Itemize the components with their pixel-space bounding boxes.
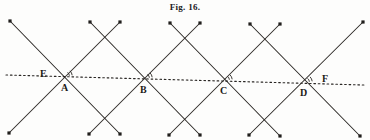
point-label-B: B [140, 85, 147, 95]
angle-arc-D [310, 77, 312, 81]
line-endpoint-dot-16 [247, 133, 250, 136]
point-label-F: F [322, 74, 328, 84]
oblique-line-down-left-4 [249, 22, 363, 135]
transversal-dotted-line [6, 75, 364, 85]
line-endpoint-dot-5 [118, 20, 121, 23]
line-endpoint-dot-1 [8, 19, 11, 22]
line-endpoint-dot-14 [87, 132, 90, 135]
angle-arc-inner-C [228, 76, 230, 79]
line-endpoint-dot-15 [167, 133, 170, 136]
line-endpoint-dot-11 [278, 134, 281, 137]
line-endpoint-dot-2 [88, 20, 91, 23]
point-label-A: A [61, 83, 68, 93]
point-label-D: D [300, 88, 307, 98]
line-endpoint-dot-9 [118, 132, 121, 135]
figure-container: Fig. 16. EABCDF [0, 0, 370, 140]
line-endpoint-dot-3 [168, 21, 171, 24]
geometry-diagram [0, 0, 370, 140]
transversal-line-EF [6, 75, 364, 85]
line-endpoint-dot-12 [358, 134, 361, 137]
line-endpoint-dot-7 [278, 22, 281, 25]
line-endpoint-dot-10 [198, 133, 201, 136]
angle-arc-group [68, 71, 313, 82]
point-label-C: C [220, 86, 227, 96]
angle-arc-A [70, 71, 72, 75]
oblique-line-group [9, 21, 363, 136]
angle-arc-inner-D [308, 78, 310, 81]
point-label-E: E [40, 69, 47, 79]
angle-arc-inner-B [148, 74, 150, 77]
line-endpoint-dot-13 [7, 131, 10, 134]
angle-arc-B [150, 73, 152, 77]
line-endpoint-dot-8 [361, 20, 364, 23]
line-endpoint-dot-6 [198, 21, 201, 24]
line-endpoint-dot-4 [248, 22, 251, 25]
angle-arc-C [230, 75, 232, 79]
